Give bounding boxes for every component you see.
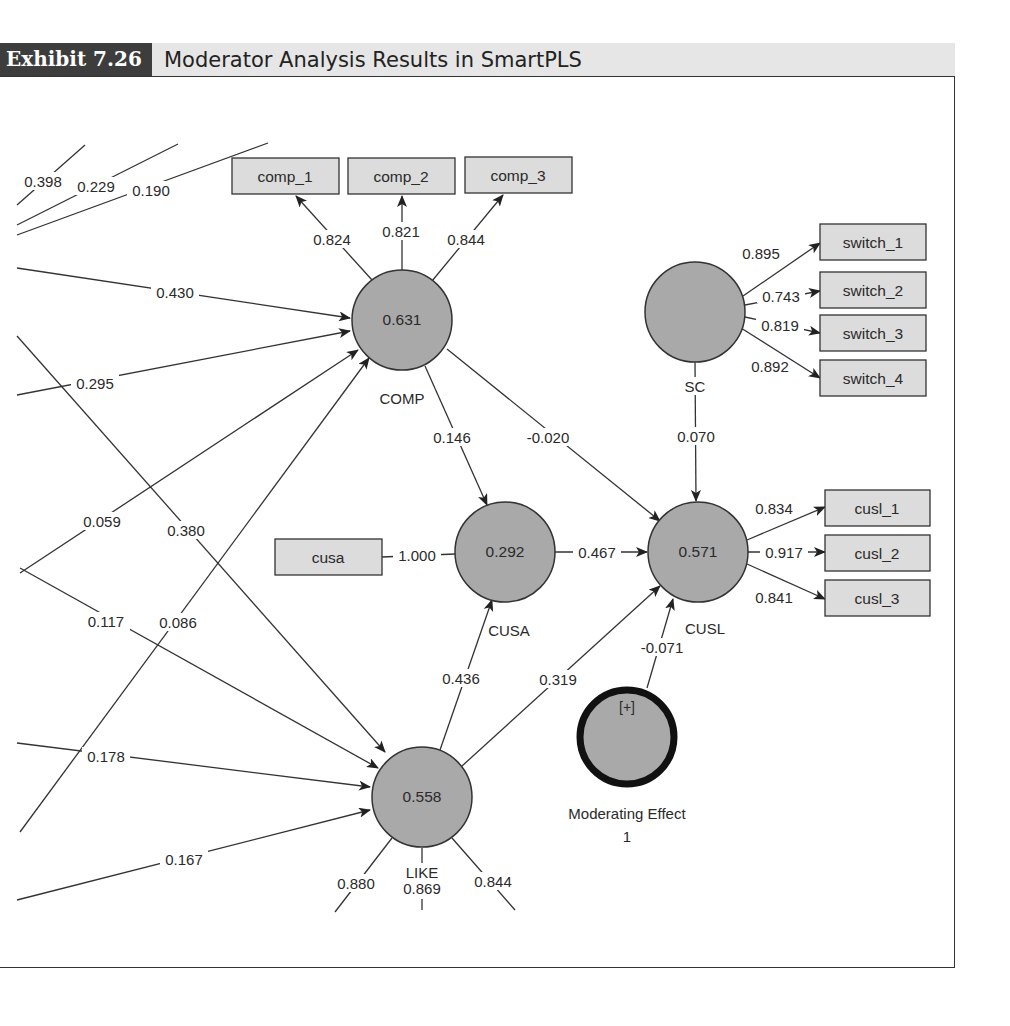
r2-like: 0.558 [403,788,442,805]
label-sc: SC [685,378,706,395]
svg-text:0.844: 0.844 [474,873,512,890]
svg-text:0.824: 0.824 [313,231,351,248]
svg-text:switch_2: switch_2 [843,282,903,299]
svg-text:-0.071: -0.071 [641,639,684,656]
indicator-cusl-1[interactable]: cusl_1 [825,490,930,526]
path-model-canvas: comp_1 comp_2 comp_3 switch_1 switch_2 s… [0,0,1010,1026]
svg-text:cusa: cusa [312,549,345,566]
expand-icon[interactable]: [+] [619,699,635,715]
svg-text:comp_2: comp_2 [373,168,428,185]
indicator-switch-4[interactable]: switch_4 [820,360,926,396]
indicator-cusl-3[interactable]: cusl_3 [825,580,930,616]
indicator-comp-3[interactable]: comp_3 [465,157,572,193]
latent-moderating-effect[interactable]: [+] [580,690,674,784]
latent-like[interactable]: 0.558 [372,747,472,847]
label-cusl: CUSL [685,620,725,637]
svg-text:0.295: 0.295 [76,375,114,392]
indicator-cusl-2[interactable]: cusl_2 [825,535,930,571]
svg-text:0.834: 0.834 [755,500,793,517]
label-moderating-effect: Moderating Effect [568,805,686,822]
svg-text:0.380: 0.380 [167,522,205,539]
svg-text:cusl_2: cusl_2 [855,545,900,562]
label-moderating-effect-number: 1 [623,828,631,845]
svg-text:0.841: 0.841 [755,589,793,606]
svg-text:0.178: 0.178 [87,748,125,765]
latent-sc[interactable] [645,262,745,362]
svg-text:0.146: 0.146 [433,429,471,446]
indicator-switch-3[interactable]: switch_3 [820,315,926,351]
r2-cusl: 0.571 [679,543,718,560]
svg-text:comp_1: comp_1 [257,168,312,185]
svg-text:cusl_1: cusl_1 [855,500,900,517]
svg-text:1.000: 1.000 [398,547,436,564]
svg-text:0.895: 0.895 [742,245,780,262]
svg-text:0.880: 0.880 [337,875,375,892]
svg-text:0.819: 0.819 [761,317,799,334]
indicator-switch-2[interactable]: switch_2 [820,272,926,308]
svg-text:-0.020: -0.020 [527,429,570,446]
svg-text:0.892: 0.892 [751,358,789,375]
indicator-switch-1[interactable]: switch_1 [820,224,926,260]
svg-text:0.917: 0.917 [765,544,803,561]
svg-text:0.086: 0.086 [159,614,197,631]
svg-text:0.117: 0.117 [88,613,124,630]
svg-text:0.430: 0.430 [156,284,194,301]
latent-cusa[interactable]: 0.292 [455,502,555,602]
svg-text:0.467: 0.467 [578,544,616,561]
svg-text:switch_3: switch_3 [843,325,903,342]
svg-text:0.319: 0.319 [539,671,577,688]
svg-text:0.436: 0.436 [442,670,480,687]
svg-text:0.229: 0.229 [77,178,115,195]
label-comp: COMP [380,390,425,407]
svg-text:0.844: 0.844 [447,231,485,248]
svg-text:comp_3: comp_3 [490,167,545,184]
r2-comp: 0.631 [383,311,422,328]
label-cusa: CUSA [488,622,530,639]
label-like: LIKE [406,864,439,881]
svg-text:switch_1: switch_1 [843,234,903,251]
svg-text:0.059: 0.059 [83,513,121,530]
svg-text:0.398: 0.398 [24,173,62,190]
latent-cusl[interactable]: 0.571 [648,502,748,602]
indicator-cusa[interactable]: cusa [275,539,382,575]
svg-text:0.869: 0.869 [403,880,441,897]
latent-comp[interactable]: 0.631 [352,270,452,370]
svg-text:0.167: 0.167 [165,851,203,868]
indicator-comp-1[interactable]: comp_1 [232,158,339,194]
svg-text:0.190: 0.190 [132,182,170,199]
indicator-comp-2[interactable]: comp_2 [348,158,455,194]
svg-text:0.070: 0.070 [677,428,715,445]
svg-text:cusl_3: cusl_3 [855,590,900,607]
svg-text:0.821: 0.821 [382,223,420,240]
svg-text:0.743: 0.743 [762,288,800,305]
r2-cusa: 0.292 [486,543,525,560]
svg-text:switch_4: switch_4 [843,370,904,387]
